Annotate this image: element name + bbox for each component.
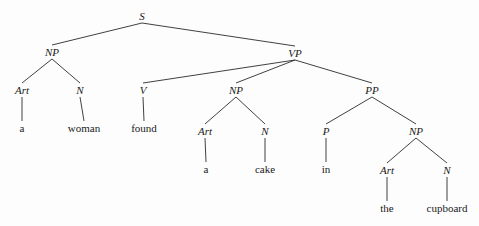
tree-edge [22,59,52,83]
tree-edge [143,60,295,83]
syntax-tree-diagram: SNPVPArtNVNPPPawomanfoundArtNPNPacakeinA… [0,0,479,226]
tree-leaf-leaf_cak: cake [255,164,275,175]
tree-node-art1: Art [15,85,29,96]
tree-edge [295,60,372,83]
tree-node-p: P [323,126,330,137]
tree-leaf-leaf_a2: a [204,164,209,175]
tree-node-n1: N [76,85,83,96]
tree-node-np3: NP [409,126,423,137]
tree-node-vp: VP [288,48,301,59]
tree-node-pp: PP [365,85,378,96]
tree-edge [205,138,206,162]
tree-leaf-leaf_the: the [380,203,393,214]
tree-leaf-leaf_fnd: found [131,123,157,134]
tree-edges-layer [0,0,479,226]
tree-leaf-leaf_wom: woman [68,123,100,134]
tree-node-v: V [140,85,147,96]
tree-node-np2: NP [229,85,243,96]
tree-edge [416,138,447,163]
tree-edge [387,138,416,163]
tree-edge [236,97,265,124]
tree-node-art2: Art [198,126,212,137]
tree-node-np1: NP [45,47,59,58]
tree-edge [236,60,295,83]
tree-edge [205,97,236,124]
tree-leaf-leaf_in: in [322,164,331,175]
tree-leaf-leaf_cup: cupboard [427,203,468,214]
tree-leaf-leaf_a1: a [20,123,25,134]
tree-edge [143,97,144,121]
tree-edge [326,97,372,124]
tree-node-n2: N [261,126,268,137]
tree-edge [52,23,142,45]
tree-node-n3: N [443,165,450,176]
tree-edge [80,97,84,121]
tree-edge [52,59,80,83]
tree-edge [372,97,416,124]
tree-node-s: S [139,11,145,22]
tree-edge [142,23,295,46]
tree-node-art3: Art [380,165,394,176]
